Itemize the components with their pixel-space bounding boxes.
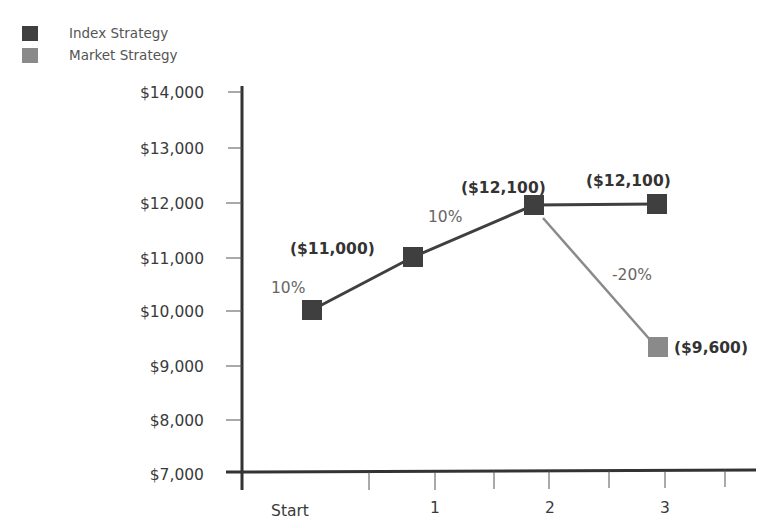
index-marker-3	[647, 194, 667, 214]
svg-text:Start: Start	[271, 502, 309, 520]
svg-text:$7,000: $7,000	[150, 466, 204, 484]
svg-text:$10,000: $10,000	[140, 303, 204, 321]
svg-text:$8,000: $8,000	[150, 412, 204, 430]
value-label: ($12,100)	[461, 179, 546, 197]
x-tick-labels: Start 1 2 3	[271, 499, 670, 520]
x-axis	[226, 470, 756, 472]
x-tick-marks	[369, 470, 725, 490]
svg-text:$11,000: $11,000	[140, 250, 204, 268]
svg-text:$12,000: $12,000	[140, 195, 204, 213]
chart-canvas: $14,000 $13,000 $12,000 $11,000 $10,000 …	[0, 0, 774, 528]
value-label: ($12,100)	[586, 172, 671, 190]
svg-text:$9,000: $9,000	[150, 358, 204, 376]
market-marker-3	[648, 337, 668, 357]
svg-text:3: 3	[660, 499, 670, 517]
y-tick-marks	[226, 92, 242, 420]
svg-text:1: 1	[430, 499, 440, 517]
svg-text:$14,000: $14,000	[140, 84, 204, 102]
percent-label: 10%	[428, 208, 462, 226]
y-tick-labels: $14,000 $13,000 $12,000 $11,000 $10,000 …	[140, 84, 204, 484]
svg-text:$13,000: $13,000	[140, 140, 204, 158]
percent-label: -20%	[612, 266, 652, 284]
value-label: ($11,000)	[290, 240, 375, 258]
index-marker-2	[524, 195, 544, 215]
index-marker-1	[403, 247, 423, 267]
percent-label: 10%	[271, 279, 305, 297]
value-label: ($9,600)	[674, 339, 748, 357]
svg-text:2: 2	[545, 499, 555, 517]
index-marker-start	[302, 300, 322, 320]
